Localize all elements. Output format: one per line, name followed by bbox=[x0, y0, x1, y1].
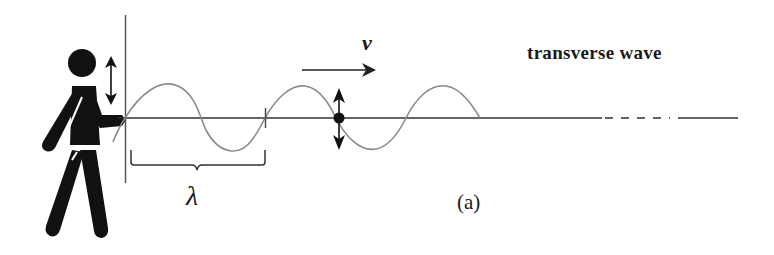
wavelength-brace bbox=[131, 150, 265, 170]
velocity-arrow-icon bbox=[302, 63, 376, 77]
hand-motion-arrow-icon bbox=[105, 56, 117, 105]
transverse-wave-diagram bbox=[0, 0, 774, 255]
panel-label: (a) bbox=[457, 190, 480, 215]
person-icon bbox=[42, 49, 126, 238]
particle-motion-icon bbox=[333, 88, 345, 150]
diagram-title: transverse wave bbox=[527, 42, 662, 64]
wavelength-label: λ bbox=[186, 180, 198, 212]
velocity-label: v bbox=[362, 30, 372, 56]
